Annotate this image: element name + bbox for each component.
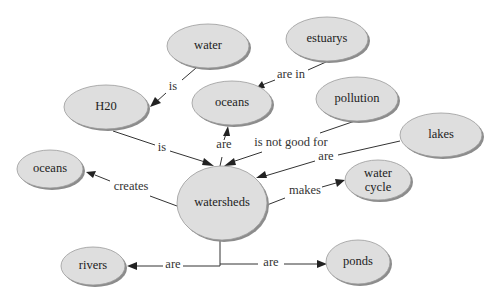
node-watersheds[interactable]: watersheds [177, 166, 269, 242]
edge-watersheds-are-oceans: are [216, 126, 232, 166]
arrowhead-icon [224, 158, 236, 166]
node-label: pollution [334, 91, 380, 105]
arrowhead-icon [86, 171, 96, 178]
node-ponds[interactable]: ponds [326, 240, 392, 286]
edge-water-is-h20: is [150, 68, 196, 107]
arrowhead-icon [256, 171, 267, 178]
edge-watersheds-makes-water-cycle: makes [267, 179, 345, 205]
edge-label: is not good for [254, 135, 328, 149]
concept-map-diagram: is are in is are is not good for are [0, 0, 500, 307]
node-rivers[interactable]: rivers [61, 247, 127, 287]
node-oceans-top[interactable]: oceans [192, 81, 274, 127]
node-label: rivers [79, 258, 108, 272]
node-label: oceans [33, 161, 67, 175]
edge-watersheds-are-rivers: are [127, 240, 220, 271]
node-estuarys[interactable]: estuarys [286, 17, 370, 63]
edge-label: are in [277, 67, 306, 81]
node-water[interactable]: water [167, 24, 251, 70]
node-label: watersheds [194, 195, 250, 209]
arrowhead-icon [127, 262, 137, 270]
edge-label: is [169, 79, 177, 93]
node-label: oceans [215, 95, 249, 109]
node-pollution[interactable]: pollution [316, 77, 400, 123]
edge-label: makes [289, 183, 321, 197]
edge-label: creates [114, 179, 149, 193]
edge-label: are [216, 137, 232, 151]
edge-label: are [263, 255, 279, 269]
node-oceans-left[interactable]: oceans [17, 150, 85, 190]
node-label: ponds [343, 254, 373, 268]
node-label: water [194, 38, 223, 52]
edge-h20-is-watersheds: is [113, 131, 214, 166]
edge-estuarys-are-in-oceans: are in [256, 62, 326, 89]
arrowhead-icon [223, 126, 230, 136]
node-label-line2: cycle [365, 180, 392, 194]
node-h20[interactable]: H20 [64, 85, 150, 131]
node-water-cycle[interactable]: water cycle [345, 160, 413, 202]
node-label: H20 [95, 99, 117, 113]
node-label: lakes [428, 127, 454, 141]
edge-label: are [318, 149, 334, 163]
arrowhead-icon [317, 260, 327, 268]
arrowhead-icon [202, 158, 214, 166]
node-lakes[interactable]: lakes [400, 113, 484, 159]
edge-watersheds-creates-oceans: creates [86, 171, 177, 206]
edge-pollution-is-not-good-for-watersheds: is not good for [224, 121, 355, 166]
edge-label: are [165, 257, 181, 271]
edge-label: is [158, 140, 166, 154]
node-label: estuarys [307, 31, 348, 45]
arrowhead-icon [335, 179, 345, 187]
edge-watersheds-are-ponds: are [220, 255, 327, 269]
node-label-line1: water [364, 166, 393, 180]
